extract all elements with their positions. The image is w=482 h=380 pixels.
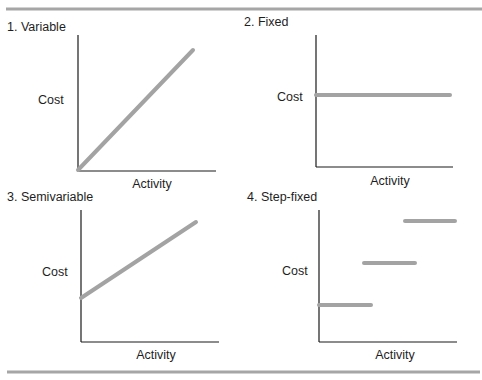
y-axis-label: Cost <box>38 94 64 107</box>
panel-title-fixed: 2. Fixed <box>244 16 288 29</box>
panel-title-variable: 1. Variable <box>7 21 66 34</box>
y-axis-label: Cost <box>277 91 303 104</box>
variable-cost-line <box>78 50 193 170</box>
x-axis-label: Activity <box>375 349 415 362</box>
x-axis-label: Activity <box>132 178 172 191</box>
panel-semivariable <box>81 210 219 342</box>
y-axis-label: Cost <box>42 266 68 279</box>
panel-step-fixed <box>319 210 457 342</box>
x-axis-label: Activity <box>370 175 410 188</box>
semivariable-cost-line <box>81 222 196 298</box>
panel-fixed <box>316 35 453 167</box>
panel-title-semivariable: 3. Semivariable <box>7 191 93 204</box>
x-axis-label: Activity <box>136 349 176 362</box>
panel-variable <box>78 35 216 171</box>
y-axis-label: Cost <box>282 265 308 278</box>
panel-title-step-fixed: 4. Step-fixed <box>247 191 317 204</box>
